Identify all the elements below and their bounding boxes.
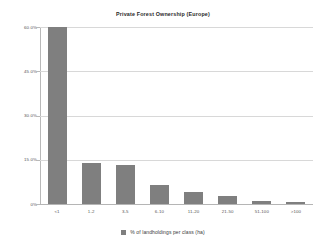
- x-axis-tick-label: 21-50: [211, 209, 245, 214]
- bar-3-5[interactable]: [116, 165, 135, 204]
- y-axis-tick-mark: [36, 71, 40, 72]
- chart-legend: % of landholdings per class (ha): [0, 229, 326, 235]
- y-axis-tick-mark: [36, 27, 40, 28]
- gridline-0%: [40, 204, 313, 205]
- bar->100[interactable]: [286, 202, 305, 204]
- y-axis-tick-label: 15.0%: [0, 157, 37, 162]
- y-axis-tick-label: 30.0%: [0, 113, 37, 118]
- x-axis-tick-label: >100: [279, 209, 313, 214]
- y-axis-tick-label: 45.0%: [0, 69, 37, 74]
- x-axis-tick-label: 11-20: [177, 209, 211, 214]
- chart-title: Private Forest Ownership (Europe): [0, 11, 326, 17]
- bar-6-10[interactable]: [150, 185, 169, 204]
- y-axis-tick-mark: [36, 160, 40, 161]
- x-axis-tick-label: 6-10: [142, 209, 176, 214]
- bar-1-2[interactable]: [82, 163, 101, 204]
- y-axis-tick-mark: [36, 116, 40, 117]
- legend-entry-label: % of landholdings per class (ha): [130, 229, 204, 235]
- bar-11-20[interactable]: [184, 192, 203, 204]
- bar-21-50[interactable]: [218, 196, 237, 204]
- square-swatch-icon: [121, 230, 126, 235]
- x-axis-tick-label: 51-100: [245, 209, 279, 214]
- chart-figure: Private Forest Ownership (Europe) % of l…: [0, 0, 326, 249]
- x-axis-tick-label: <1: [40, 209, 74, 214]
- bar-51-100[interactable]: [252, 201, 271, 204]
- x-axis-tick-label: 3-5: [108, 209, 142, 214]
- x-axis-tick-label: 1-2: [74, 209, 108, 214]
- bar-<1[interactable]: [48, 27, 67, 204]
- bars-layer: [40, 27, 313, 204]
- y-axis-tick-label: 0%: [0, 202, 37, 207]
- y-axis-tick-mark: [36, 204, 40, 205]
- y-axis-tick-label: 60.0%: [0, 25, 37, 30]
